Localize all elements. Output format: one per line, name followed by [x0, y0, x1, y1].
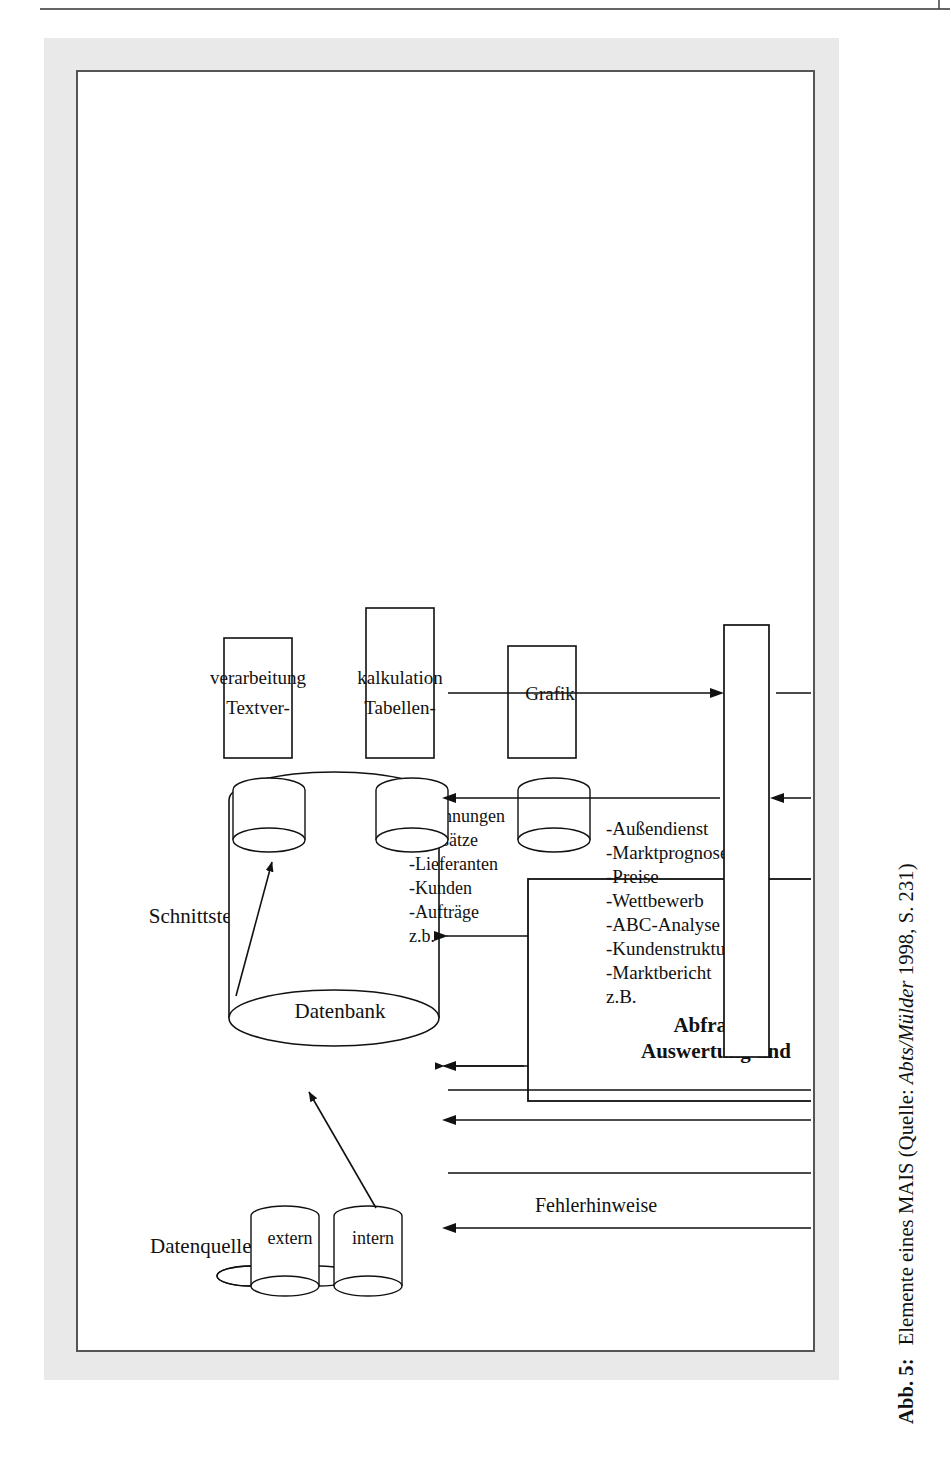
arrowhead-down	[434, 931, 448, 941]
figure-caption: Abb. 5:Elemente eines MAIS (Quelle: Abts…	[895, 54, 935, 1424]
tool-box-textverarbeitung: Textver- verarbeitung	[210, 638, 307, 852]
cylinder-intern-label: intern	[352, 1228, 394, 1248]
tool-box-label-line1: Tabellen-	[364, 697, 435, 718]
arrowhead-system-up	[442, 1115, 456, 1125]
diagram-svg: Datenquellen Schnittstellen extern inter…	[76, 70, 811, 1348]
previous-page-sliver-right	[938, 0, 950, 9]
cylinder-datenbank-label: Datenbank	[295, 999, 386, 1023]
document-page: Datenquellen Schnittstellen extern inter…	[0, 0, 951, 1470]
datenbank-item: -Aufträge	[409, 902, 479, 922]
auswertung-item: -Kundenstruktur	[606, 938, 732, 959]
caption-label: Abb. 5:	[895, 1358, 917, 1424]
label-datenquellen: Datenquellen	[150, 1234, 262, 1258]
arrow-intern-to-datenbank	[309, 1092, 376, 1208]
auswertung-item: -ABC-Analyse	[606, 914, 720, 935]
auswertung-item: -Wettbewerb	[606, 890, 704, 911]
bs-item-fehlerhinweise: Fehlerhinweise	[535, 1194, 657, 1216]
auswertung-item: -Marktbericht	[606, 962, 712, 983]
figure-diagram: Datenquellen Schnittstellen extern inter…	[76, 70, 811, 1348]
previous-page-sliver	[40, 0, 950, 10]
caption-text-before: Elemente eines MAIS (Quelle:	[895, 1084, 917, 1345]
auswertung-item: -Marktprognosen	[606, 842, 738, 863]
tool-box-grafik: Grafik	[508, 646, 590, 852]
datenbank-example-label: z.b.	[409, 926, 435, 946]
cylinder-intern: intern	[334, 1206, 402, 1296]
datenbank-item: -Kunden	[409, 878, 472, 898]
arrowhead-bs-mb	[770, 793, 784, 803]
auswertung-item: -Außendienst	[606, 818, 709, 839]
arrowhead-dialog-up	[442, 1223, 456, 1233]
auswertung-example-label: z.B.	[606, 986, 637, 1007]
tool-box-label-line2: kalkulation	[357, 667, 443, 688]
tool-box-label-line2: verarbeitung	[210, 667, 307, 688]
auswertung-item: -Preise	[606, 866, 659, 887]
caption-source: Abts/Mülder	[895, 980, 917, 1084]
tool-box-label-line1: Textver-	[226, 697, 290, 718]
cylinder-extern-label: extern	[268, 1228, 313, 1248]
caption-text-after: 1998, S. 231)	[895, 863, 917, 980]
arrowhead-db-mb	[710, 688, 724, 698]
datenbank-item: -Lieferanten	[409, 854, 498, 874]
arrowhead-up	[442, 1061, 456, 1071]
